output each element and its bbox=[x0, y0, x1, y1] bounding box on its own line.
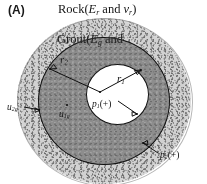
label-grout-sym1: E bbox=[90, 32, 98, 46]
p1-leader bbox=[118, 101, 137, 116]
label-r2: r2 bbox=[59, 54, 68, 67]
p1-point bbox=[136, 113, 138, 115]
label-p1: p1(+) bbox=[92, 100, 111, 110]
p2-leader bbox=[143, 140, 158, 153]
r2-leader bbox=[50, 65, 100, 93]
p2-point bbox=[142, 142, 144, 144]
r2-point bbox=[49, 68, 51, 70]
label-p2-sign: (+) bbox=[168, 150, 180, 160]
label-r2-sub: 2 bbox=[64, 58, 68, 65]
label-rock-close: ) bbox=[132, 2, 136, 16]
label-u1g-sub: 1g bbox=[64, 113, 70, 119]
figure-panel-a: (A) Rock(Er and vr) Grout(Eg and r2 r1 p… bbox=[0, 0, 207, 184]
label-grout-mid: and bbox=[102, 32, 123, 46]
label-p1-sign: (+) bbox=[100, 99, 112, 109]
label-u2g: u2g bbox=[7, 103, 18, 113]
label-rock-text: Rock( bbox=[58, 2, 89, 16]
label-grout: Grout(Eg and bbox=[57, 33, 123, 46]
label-u1g: u1g bbox=[59, 110, 70, 120]
label-r1-sub: 1 bbox=[121, 78, 124, 85]
r1-point bbox=[140, 69, 142, 71]
label-p2: p2(+) bbox=[160, 151, 179, 161]
panel-label: (A) bbox=[8, 3, 25, 17]
label-grout-text: Grout( bbox=[57, 32, 90, 46]
label-rock: Rock(Er and vr) bbox=[58, 3, 136, 16]
label-rock-mid: and bbox=[99, 2, 123, 16]
u1g-point bbox=[66, 104, 68, 106]
u2g-leader bbox=[24, 107, 40, 112]
label-u2g-sub: 2g bbox=[12, 106, 18, 112]
label-r1: r1 bbox=[117, 73, 125, 85]
center-point bbox=[99, 91, 101, 93]
